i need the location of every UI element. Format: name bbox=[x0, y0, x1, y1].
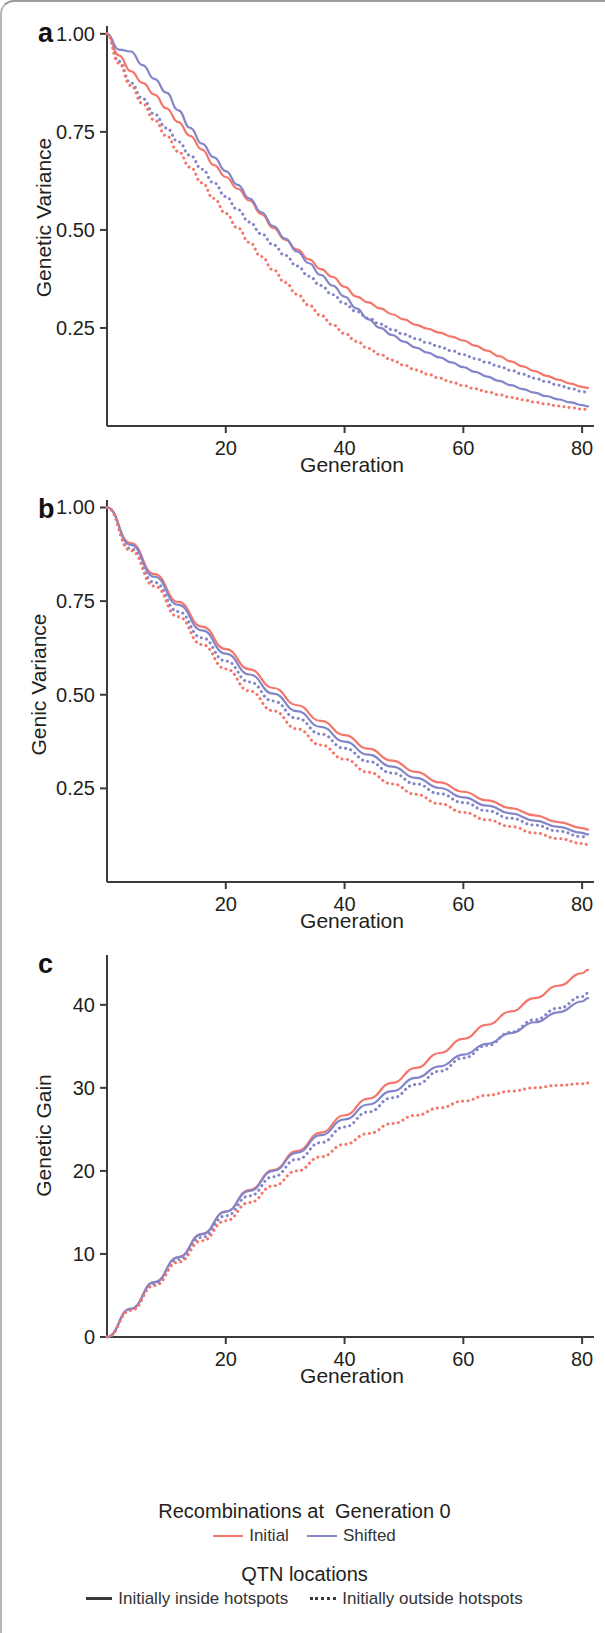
legend-recombination-title: Recombinations at Generation 0 bbox=[2, 1499, 605, 1524]
legend-item-shifted-label: Shifted bbox=[343, 1527, 396, 1544]
legend-item-outside-hotspots-label: Initially outside hotspots bbox=[342, 1590, 523, 1607]
svg-text:0: 0 bbox=[84, 1326, 95, 1348]
panel-c-x-axis-title: Generation bbox=[107, 1365, 597, 1386]
series-line bbox=[107, 970, 588, 1337]
series-line bbox=[107, 34, 588, 407]
panel-a-plot: 0.250.500.751.0020406080 bbox=[2, 2, 605, 482]
legend-qtn-title: QTN locations bbox=[2, 1562, 605, 1587]
series-line bbox=[107, 507, 588, 838]
svg-text:0.75: 0.75 bbox=[56, 590, 95, 612]
panel-c: c 01020304020406080 Genetic Gain Generat… bbox=[2, 937, 605, 1392]
series-line bbox=[107, 507, 588, 834]
panel-c-y-axis-title: Genetic Gain bbox=[33, 1031, 54, 1241]
series-line bbox=[107, 34, 588, 393]
svg-text:1.00: 1.00 bbox=[56, 23, 95, 45]
legend-recombination-row: Initial Shifted bbox=[2, 1527, 605, 1544]
figure-frame: a 0.250.500.751.0020406080 Genetic Varia… bbox=[0, 0, 605, 1633]
svg-text:0.50: 0.50 bbox=[56, 684, 95, 706]
series-line bbox=[107, 507, 588, 844]
panel-a: a 0.250.500.751.0020406080 Genetic Varia… bbox=[2, 2, 605, 482]
series-line bbox=[107, 998, 588, 1337]
panel-b-x-axis-title: Generation bbox=[107, 910, 597, 931]
svg-text:0.50: 0.50 bbox=[56, 219, 95, 241]
legend-recombination: Recombinations at Generation 0 Initial S… bbox=[2, 1499, 605, 1544]
panel-b-plot: 0.250.500.751.0020406080 bbox=[2, 482, 605, 937]
panel-c-plot: 01020304020406080 bbox=[2, 937, 605, 1392]
panel-a-y-axis-title: Genetic Variance bbox=[33, 108, 54, 328]
svg-text:10: 10 bbox=[73, 1243, 95, 1265]
svg-text:40: 40 bbox=[73, 994, 95, 1016]
panel-b-y-axis-title: Genic Variance bbox=[28, 575, 49, 795]
svg-text:0.25: 0.25 bbox=[56, 777, 95, 799]
svg-text:20: 20 bbox=[73, 1160, 95, 1182]
legend-item-shifted[interactable]: Shifted bbox=[307, 1527, 396, 1544]
svg-text:30: 30 bbox=[73, 1077, 95, 1099]
series-line bbox=[107, 34, 588, 410]
legend-item-initial[interactable]: Initial bbox=[213, 1527, 289, 1544]
panel-a-x-axis-title: Generation bbox=[107, 454, 597, 475]
legend-item-initial-label: Initial bbox=[249, 1527, 289, 1544]
line-swatch-solid-icon bbox=[86, 1597, 112, 1600]
svg-text:1.00: 1.00 bbox=[56, 496, 95, 518]
series-line bbox=[107, 507, 588, 829]
svg-text:0.25: 0.25 bbox=[56, 317, 95, 339]
series-line bbox=[107, 993, 588, 1337]
line-swatch-shifted-icon bbox=[307, 1535, 337, 1537]
legend-qtn-row: Initially inside hotspots Initially outs… bbox=[2, 1590, 605, 1607]
legend-item-outside-hotspots[interactable]: Initially outside hotspots bbox=[310, 1590, 523, 1607]
legend-item-inside-hotspots[interactable]: Initially inside hotspots bbox=[86, 1590, 288, 1607]
series-line bbox=[107, 1083, 588, 1337]
legend-item-inside-hotspots-label: Initially inside hotspots bbox=[118, 1590, 288, 1607]
panel-b: b 0.250.500.751.0020406080 Genic Varianc… bbox=[2, 482, 605, 937]
legend-qtn: QTN locations Initially inside hotspots … bbox=[2, 1562, 605, 1607]
svg-text:0.75: 0.75 bbox=[56, 121, 95, 143]
line-swatch-dotted-icon bbox=[310, 1597, 336, 1600]
line-swatch-initial-icon bbox=[213, 1535, 243, 1537]
